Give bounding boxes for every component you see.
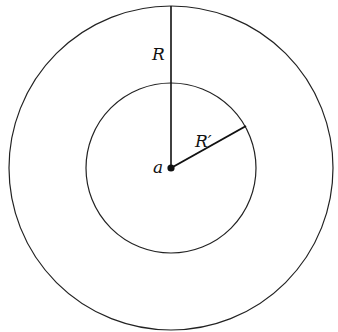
outer-radius-label: R: [151, 44, 165, 64]
inner-radius-label: R′: [194, 131, 212, 151]
center-label: a: [153, 157, 163, 177]
center-point: [167, 164, 174, 171]
concentric-circles-diagram: R R′ a: [0, 0, 338, 332]
